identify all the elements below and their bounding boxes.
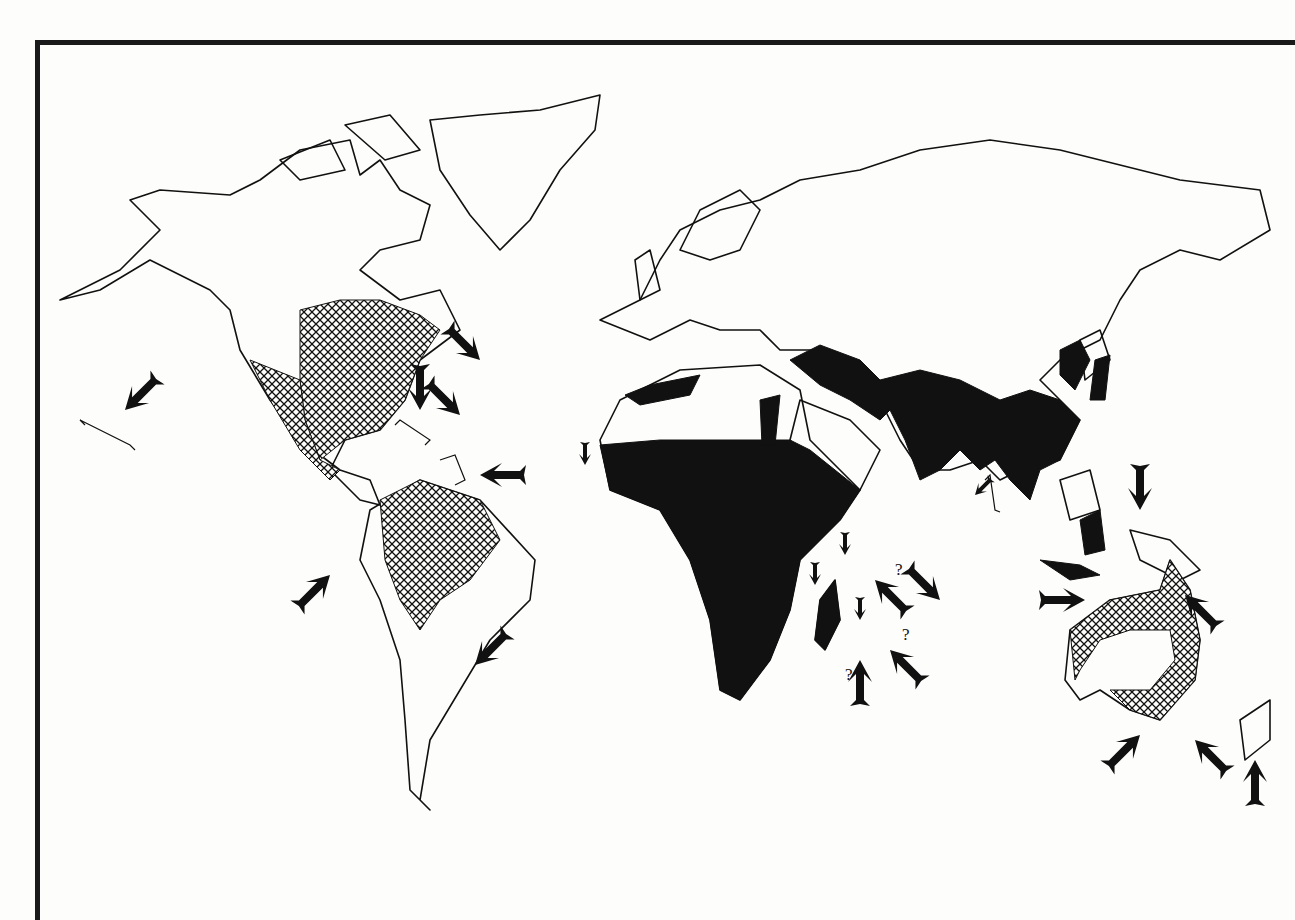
arrow-icon: [579, 442, 591, 465]
arrow-icon: [1099, 727, 1148, 776]
arrow-icon: [1039, 588, 1085, 612]
arrow-icon: [1243, 760, 1267, 806]
solid-madagascar: [815, 580, 840, 650]
arrow-icon: [854, 597, 866, 620]
solid-indonesia-1: [1040, 560, 1100, 580]
solid-africa: [600, 440, 860, 700]
arrow-icon: [899, 559, 948, 608]
arrow-icon: [809, 562, 821, 585]
arrow-icon: [439, 319, 488, 368]
solid-indonesia-2: [1080, 510, 1105, 555]
arrow-icon: [839, 532, 851, 555]
arrow-icon: [882, 642, 931, 691]
arrow-icon: [289, 567, 338, 616]
arrow-icon: [117, 369, 166, 418]
arrow-icon: [1187, 732, 1236, 781]
greenland-outline: [430, 95, 600, 250]
question-mark: ?: [895, 560, 903, 579]
arrow-icon: [419, 374, 468, 423]
question-mark: ?: [845, 665, 853, 684]
arrow-icon: [480, 463, 526, 487]
arrow-icon: [1128, 464, 1152, 510]
solid-nile: [760, 395, 780, 445]
native-range: [600, 340, 1110, 700]
solid-japan: [1090, 355, 1110, 400]
island-brackets: [80, 420, 1000, 512]
question-mark: ?: [902, 625, 910, 644]
arrow-icon: [867, 572, 916, 621]
